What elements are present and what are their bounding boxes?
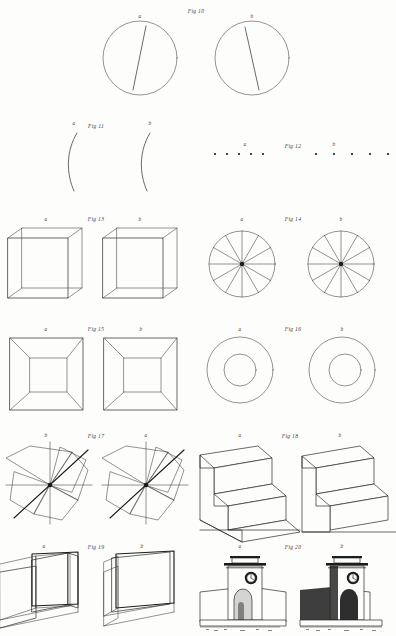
cube-wireframe-fig13-b	[103, 228, 177, 298]
panel-label-fig15-a: a	[45, 326, 48, 332]
dot-row-fig12-a	[214, 153, 264, 155]
panel-label-fig14-a: a	[241, 216, 244, 222]
figure-group-fig18: Fig 18 a b	[200, 432, 396, 542]
figure-group-fig17: Fig 17 b a	[6, 432, 188, 524]
figure-group-fig10: Fig 10 a b	[103, 8, 289, 95]
fig-label-17: Fig 17	[87, 433, 105, 439]
panel-label-fig14-b: b	[340, 216, 343, 222]
panel-fig11-b: b	[141, 120, 151, 191]
panel-fig17-b: b	[6, 432, 92, 524]
panel-fig14-a: a	[209, 216, 275, 297]
fig-label-12: Fig 12	[284, 143, 302, 149]
panel-label-fig10-b: b	[251, 13, 254, 19]
panel-label-fig12-b: b	[333, 141, 336, 147]
figure-group-fig15: Fig 15 a b	[10, 326, 177, 410]
panel-fig15-a: a	[10, 326, 83, 410]
spoked-wheel-fig14-b	[308, 231, 374, 297]
panel-fig16-a: a	[207, 326, 273, 403]
panel-label-fig19-b: b	[141, 543, 144, 549]
panel-label-fig17-a: a	[145, 432, 148, 438]
folded-screen-fig19-b	[104, 551, 174, 626]
fig-label-13: Fig 13	[87, 216, 105, 222]
inner-circle-fig16-a	[224, 354, 256, 386]
figure-group-fig11: Fig 11 a b	[68, 120, 151, 191]
panel-label-fig19-a: a	[43, 543, 46, 549]
panel-fig10-a: a	[103, 13, 177, 95]
panel-fig11-a: a	[68, 120, 77, 191]
pinwheel-fig17-b	[6, 442, 92, 524]
panel-label-fig13-a: a	[45, 216, 48, 222]
folded-screen-fig19-a	[0, 552, 78, 628]
oblique-chord-fig10-b	[245, 27, 259, 90]
figure-plate: Fig 10 a b Fig 11 a b Fig 12 a	[0, 0, 396, 636]
panel-label-fig11-a: a	[73, 120, 76, 126]
panel-fig10-b: b	[215, 13, 289, 95]
fig-label-10: Fig 10	[187, 8, 205, 14]
figure-group-fig14: Fig 14 a	[209, 216, 374, 297]
figure-group-fig20: Fig 20 a	[200, 543, 382, 631]
figure-group-fig19: Fig 19 a b	[0, 543, 174, 628]
figure-group-fig16: Fig 16 a b	[207, 326, 375, 403]
panel-label-fig20-b: b	[341, 543, 344, 549]
staircase-fig18-b	[302, 446, 396, 532]
monument-fig20-a	[200, 556, 286, 631]
panel-fig20-a: a	[200, 543, 286, 631]
fig-label-16: Fig 16	[284, 326, 302, 332]
panel-fig17-a: a	[102, 432, 188, 524]
panel-fig13-a: a	[8, 216, 82, 298]
spoked-wheel-fig14-a	[209, 231, 275, 297]
fig-label-20: Fig 20	[284, 544, 302, 550]
arc-curve-fig11-a	[68, 133, 77, 191]
panel-label-fig11-b: b	[149, 120, 152, 126]
frustum-fig15-a	[10, 338, 83, 410]
panel-fig18-a: a	[200, 432, 300, 542]
outer-circle-fig16-a	[207, 337, 273, 403]
panel-fig13-b: b	[103, 216, 177, 298]
fig-label-14: Fig 14	[284, 216, 302, 222]
panel-label-fig20-a: a	[239, 543, 242, 549]
panel-fig16-b: b	[309, 326, 375, 403]
inner-circle-fig16-b	[329, 354, 361, 386]
pinwheel-fig17-a	[102, 442, 188, 524]
panel-label-fig12-a: a	[244, 141, 247, 147]
cube-wireframe-fig13-a	[8, 228, 82, 298]
figure-group-fig12: Fig 12 a b	[214, 141, 389, 155]
panel-label-fig13-b: b	[139, 216, 142, 222]
oblique-chord-fig10-a	[133, 26, 146, 90]
panel-label-fig18-a: a	[239, 432, 242, 438]
fig-label-11: Fig 11	[87, 123, 104, 129]
panel-fig12-a: a	[214, 141, 264, 155]
panel-fig19-b: b	[104, 543, 174, 626]
staircase-fig18-a	[200, 446, 300, 542]
panel-fig14-b: b	[308, 216, 374, 297]
dot-row-fig12-b	[315, 153, 389, 155]
panel-fig12-b: b	[315, 141, 389, 155]
figure-group-fig13: Fig 13 a b	[8, 216, 177, 298]
panel-fig18-b: b	[302, 432, 396, 532]
arc-curve-fig11-b	[141, 133, 150, 191]
panel-label-fig15-b: b	[140, 326, 143, 332]
outer-circle-fig16-b	[309, 337, 375, 403]
fig-label-15: Fig 15	[87, 326, 105, 332]
fig-label-18: Fig 18	[281, 433, 299, 439]
monument-fig20-b	[300, 556, 382, 631]
fig-label-19: Fig 19	[87, 544, 105, 550]
panel-label-fig17-b: b	[45, 432, 48, 438]
frustum-fig15-b	[104, 338, 177, 410]
panel-label-fig18-b: b	[339, 432, 342, 438]
panel-label-fig16-a: a	[239, 326, 242, 332]
panel-fig15-b: b	[104, 326, 177, 410]
panel-label-fig16-b: b	[341, 326, 344, 332]
circle-outline-fig10-a	[103, 21, 177, 95]
panel-label-fig10-a: a	[139, 13, 142, 19]
panel-fig19-a: a	[0, 543, 78, 628]
panel-fig20-b: b	[300, 543, 382, 631]
